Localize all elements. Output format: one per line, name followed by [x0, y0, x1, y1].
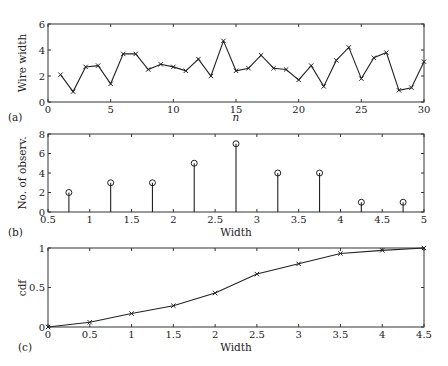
x-tick-label: 5	[107, 104, 113, 115]
x-tick-label: 4.5	[374, 214, 390, 225]
x-marker	[108, 82, 112, 86]
x-tick-label: 3.5	[291, 214, 307, 225]
x-marker	[71, 89, 75, 93]
data-line	[61, 41, 424, 92]
y-tick-label: 1	[39, 243, 45, 254]
x-marker	[146, 67, 150, 71]
plot-frame	[48, 248, 424, 327]
y-tick-label: 0	[39, 322, 45, 333]
x-marker	[259, 53, 263, 57]
plot-frame	[48, 24, 424, 102]
y-tick-label: 2	[39, 187, 45, 198]
x-tick-label: 20	[292, 104, 305, 115]
x-tick-label: 2	[170, 214, 176, 225]
figure: 0510152025300246 (a) n Wire width 0.511.…	[0, 0, 448, 366]
panel-a-tag: (a)	[8, 111, 22, 123]
panel-b-histogram-stem-plot: 0.511.522.533.544.5502468	[39, 129, 428, 226]
x-tick-label: 3	[254, 214, 260, 225]
x-marker	[359, 76, 363, 80]
x-tick-label: 4	[379, 329, 385, 340]
x-tick-label: 1	[128, 329, 134, 340]
panel-c-cdf-plot: 00.511.522.533.544.500.51	[29, 243, 432, 341]
panel-a-xlabel: n	[233, 111, 240, 123]
y-tick-label: 0	[39, 97, 45, 108]
x-marker	[296, 78, 300, 82]
y-tick-label: 2	[39, 71, 45, 82]
y-tick-label: 6	[39, 148, 45, 159]
x-marker	[334, 58, 338, 62]
x-marker	[322, 84, 326, 88]
data-line	[48, 248, 424, 327]
y-tick-label: 4	[39, 45, 45, 56]
panel-c-xlabel: Width	[220, 341, 252, 353]
y-tick-label: 0	[39, 207, 45, 218]
panel-c-ylabel: cdf	[16, 279, 28, 297]
x-tick-label: 2.5	[249, 329, 265, 340]
x-tick-label: 3.5	[332, 329, 348, 340]
x-tick-label: 0.5	[82, 329, 98, 340]
panel-b-xlabel: Width	[220, 226, 252, 238]
x-tick-label: 4.5	[416, 329, 432, 340]
x-tick-label: 3	[295, 329, 301, 340]
x-tick-label: 4	[337, 214, 343, 225]
x-tick-label: 0	[45, 104, 51, 115]
x-marker	[196, 57, 200, 61]
y-tick-label: 8	[39, 129, 45, 140]
panel-a-ylabel: Wire width	[16, 33, 28, 92]
x-tick-label: 2.5	[207, 214, 223, 225]
x-tick-label: 1	[87, 214, 93, 225]
x-marker	[347, 45, 351, 49]
x-tick-label: 5	[421, 214, 427, 225]
y-tick-label: 0.5	[29, 282, 45, 293]
x-marker	[372, 56, 376, 60]
x-tick-label: 1.5	[165, 329, 181, 340]
x-tick-label: 25	[355, 104, 368, 115]
x-tick-label: 1.5	[124, 214, 140, 225]
x-marker	[309, 63, 313, 67]
x-tick-label: 10	[167, 104, 180, 115]
panel-b-tag: (b)	[8, 226, 23, 238]
x-tick-label: 30	[418, 104, 431, 115]
x-tick-label: 0	[45, 329, 51, 340]
x-marker	[58, 73, 62, 77]
panel-c-tag: (c)	[18, 341, 32, 353]
panel-a-wire-width-plot: 0510152025300246	[39, 19, 431, 116]
x-tick-label: 2	[212, 329, 218, 340]
y-tick-label: 6	[39, 19, 45, 30]
y-tick-label: 4	[39, 168, 45, 179]
panel-b-ylabel: No. of observ.	[16, 136, 28, 209]
